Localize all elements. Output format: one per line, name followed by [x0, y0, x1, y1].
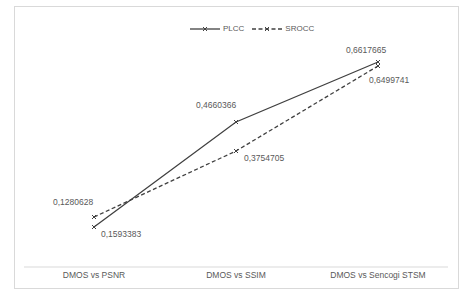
legend-label-srocc: SROCC: [285, 24, 314, 33]
series-srocc-line: [94, 66, 378, 217]
category-label-psnr: DMOS vs PSNR: [24, 270, 164, 280]
category-label-stsm: DMOS vs Sencogi STSM: [308, 270, 448, 280]
srocc-marker-icon: [234, 149, 238, 153]
data-label-psnr-plcc: 0,1593383: [101, 229, 141, 239]
legend-item-srocc: SROCC: [252, 24, 314, 33]
legend-item-plcc: PLCC: [190, 24, 244, 33]
data-label-psnr-srocc: 0,1280628: [53, 197, 93, 207]
data-label-ssim-plcc: 0,4660366: [196, 100, 236, 110]
plcc-marker-icon: [92, 225, 96, 229]
data-label-stsm-plcc: 0,6617665: [346, 45, 386, 55]
dashed-line-marker-icon: [252, 25, 282, 33]
chart-legend: PLCC SROCC: [190, 24, 314, 33]
data-label-stsm-srocc: 0,6499741: [369, 75, 409, 85]
srocc-marker-icon: [376, 64, 380, 68]
data-label-ssim-srocc: 0,3754705: [244, 153, 284, 163]
series-plcc-line: [94, 62, 378, 227]
solid-line-marker-icon: [190, 25, 220, 33]
legend-label-plcc: PLCC: [223, 24, 244, 33]
chart-plot: [0, 0, 472, 306]
category-label-ssim: DMOS vs SSIM: [166, 270, 306, 280]
